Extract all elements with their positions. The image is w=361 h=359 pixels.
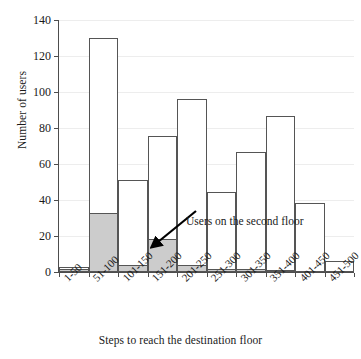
- y-tick-label: 20: [39, 230, 51, 242]
- x-axis-tick-labels: 1-5051-100101-150151-200201-250251-30030…: [58, 276, 354, 326]
- x-axis-title: Steps to reach the destination floor: [0, 334, 361, 346]
- bar-chart: Number of users 020406080100120140 1-505…: [0, 0, 361, 359]
- y-tick-mark: [54, 236, 58, 237]
- y-tick-mark: [54, 20, 58, 21]
- plot-area: 020406080100120140: [58, 20, 354, 273]
- y-tick-label: 0: [45, 266, 51, 278]
- y-tick-mark: [54, 128, 58, 129]
- y-tick-label: 100: [33, 86, 51, 98]
- y-tick-mark: [54, 200, 58, 201]
- y-tick-mark: [54, 56, 58, 57]
- y-axis-title: Number of users: [16, 30, 28, 190]
- annotation-label: Users on the second floor: [186, 216, 304, 228]
- y-tick-mark: [54, 164, 58, 165]
- y-tick-label: 80: [39, 122, 51, 134]
- y-tick-label: 140: [33, 14, 51, 26]
- bar: [266, 116, 296, 272]
- y-tick-label: 60: [39, 158, 51, 170]
- bar-series: [59, 20, 354, 272]
- x-tick-mark: [354, 273, 355, 277]
- bar: [177, 99, 207, 272]
- y-tick-mark: [54, 272, 58, 273]
- y-tick-mark: [54, 92, 58, 93]
- y-tick-label: 40: [39, 194, 51, 206]
- y-tick-label: 120: [33, 50, 51, 62]
